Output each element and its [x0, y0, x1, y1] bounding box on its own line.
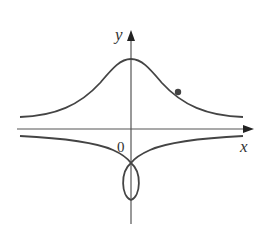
- y-axis-arrow-icon: [127, 30, 135, 41]
- x-axis-label: x: [239, 137, 248, 156]
- marked-point: [175, 89, 181, 95]
- x-axis-arrow-icon: [243, 125, 254, 133]
- lower-right-branch: [131, 136, 243, 163]
- x-axis: [17, 125, 254, 133]
- function-graph: y x 0: [0, 0, 269, 226]
- origin-label: 0: [117, 139, 125, 155]
- y-axis-label: y: [113, 25, 123, 44]
- lower-left-branch: [20, 136, 131, 163]
